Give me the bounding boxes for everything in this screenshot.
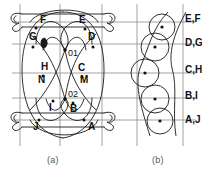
row-label-CH: C,H xyxy=(185,64,202,75)
dot-F xyxy=(35,27,38,30)
label-O1: 01 xyxy=(68,48,78,58)
label-F: F xyxy=(40,14,46,25)
label-O2: 02 xyxy=(68,89,78,99)
row-label-BI: B,I xyxy=(185,90,198,101)
dot-G xyxy=(32,46,35,49)
band-row-labels: E,F D,G C,H B,I A,J xyxy=(185,13,202,125)
panel-b-circle-band: E,F D,G C,H B,I A,J xyxy=(131,12,202,136)
center-dot-EF xyxy=(160,25,163,28)
dot-O1 xyxy=(63,48,67,52)
label-I: I xyxy=(49,102,52,113)
label-J: J xyxy=(33,121,39,132)
center-dot-DG xyxy=(153,45,156,48)
center-dot-CH xyxy=(143,71,146,74)
center-dot-AJ xyxy=(158,119,161,122)
caption-panel-b: (b) xyxy=(152,155,164,165)
row-label-AJ: A,J xyxy=(185,114,201,125)
caption-panel-a: (a) xyxy=(47,155,59,165)
label-B: B xyxy=(70,103,77,114)
label-E: E xyxy=(79,14,86,25)
figure-root: F E G D 01 H C N M 02 I B J A xyxy=(0,0,202,175)
dot-E xyxy=(84,28,87,31)
label-N: N xyxy=(38,74,45,85)
dot-O2 xyxy=(63,97,67,101)
dot-A xyxy=(83,119,86,122)
label-H: H xyxy=(41,61,48,72)
bottom-ribbon xyxy=(11,112,115,130)
dot-D xyxy=(92,46,95,49)
dot-I xyxy=(52,100,55,103)
band-edge-right xyxy=(171,12,186,136)
label-G: G xyxy=(29,31,37,42)
label-D: D xyxy=(88,31,95,42)
row-label-DG: D,G xyxy=(185,37,202,48)
label-A: A xyxy=(88,121,95,132)
band-circles xyxy=(131,14,175,134)
center-dot-BI xyxy=(153,97,156,100)
label-C: C xyxy=(78,62,85,73)
label-M: M xyxy=(80,74,88,85)
band-edge-left xyxy=(138,12,168,136)
figure-canvas: F E G D 01 H C N M 02 I B J A xyxy=(0,0,202,175)
row-label-EF: E,F xyxy=(185,13,201,24)
panel-a-braid-diagram: F E G D 01 H C N M 02 I B J A xyxy=(11,10,115,138)
